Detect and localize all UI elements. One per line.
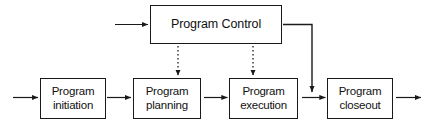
program-control-flow-diagram: Program Control Program initiation Progr… [0,0,435,129]
node-program-execution-label: Program execution [240,85,287,112]
node-program-execution[interactable]: Program execution [229,78,298,119]
node-program-closeout-label: Program closeout [339,85,382,112]
node-program-control[interactable]: Program Control [150,5,282,44]
node-program-initiation[interactable]: Program initiation [40,78,106,119]
node-program-closeout[interactable]: Program closeout [327,78,393,119]
node-program-planning-label: Program planning [146,85,189,112]
node-program-initiation-label: Program initiation [52,85,95,112]
node-program-control-label: Program Control [171,17,261,32]
node-program-planning[interactable]: Program planning [133,78,201,119]
